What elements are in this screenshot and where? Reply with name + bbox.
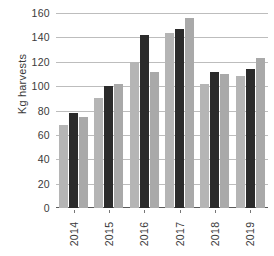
bar bbox=[175, 29, 184, 208]
y-axis-tick-labels: 020406080100120140160 bbox=[0, 13, 50, 208]
y-tick-label: 80 bbox=[6, 105, 50, 117]
x-tick-label: 2015 bbox=[103, 222, 115, 247]
bar-group bbox=[127, 13, 162, 208]
bar bbox=[210, 72, 219, 209]
y-tick-label: 40 bbox=[6, 153, 50, 165]
x-tick-label: 2018 bbox=[209, 222, 221, 247]
bar bbox=[79, 117, 88, 208]
bar bbox=[246, 69, 255, 208]
bar bbox=[130, 62, 139, 208]
bar bbox=[104, 86, 113, 208]
y-tick-label: 20 bbox=[6, 178, 50, 190]
bar bbox=[150, 72, 159, 209]
x-tick-group: 2015 bbox=[91, 210, 126, 256]
bar bbox=[200, 84, 209, 208]
y-tick-label: 120 bbox=[6, 56, 50, 68]
x-tick-mark bbox=[180, 210, 181, 213]
x-tick-group: 2018 bbox=[197, 210, 232, 256]
bar-chart: Kg harvests 020406080100120140160 201420… bbox=[0, 0, 274, 256]
bar-group bbox=[233, 13, 268, 208]
bar bbox=[69, 113, 78, 208]
bars-layer bbox=[56, 13, 268, 208]
x-tick-mark bbox=[250, 210, 251, 213]
x-tick-group: 2017 bbox=[162, 210, 197, 256]
y-tick-label: 100 bbox=[6, 80, 50, 92]
bar-group bbox=[56, 13, 91, 208]
y-tick-label: 0 bbox=[6, 202, 50, 214]
bar-group bbox=[162, 13, 197, 208]
bar bbox=[220, 74, 229, 208]
y-tick-label: 60 bbox=[6, 129, 50, 141]
x-tick-group: 2014 bbox=[56, 210, 91, 256]
x-tick-mark bbox=[144, 210, 145, 213]
x-tick-group: 2016 bbox=[127, 210, 162, 256]
x-tick-label: 2017 bbox=[174, 222, 186, 247]
bar bbox=[59, 125, 68, 208]
bar bbox=[94, 98, 103, 208]
bar bbox=[236, 76, 245, 208]
x-tick-mark bbox=[74, 210, 75, 213]
x-tick-label: 2019 bbox=[244, 222, 256, 247]
y-tick-label: 160 bbox=[6, 7, 50, 19]
x-tick-label: 2014 bbox=[68, 222, 80, 247]
x-tick-group: 2019 bbox=[233, 210, 268, 256]
y-tick-label: 140 bbox=[6, 31, 50, 43]
bar bbox=[114, 84, 123, 208]
bar-group bbox=[91, 13, 126, 208]
x-axis-tick-labels: 201420152016201720182019 bbox=[56, 210, 268, 256]
x-tick-mark bbox=[109, 210, 110, 213]
bar bbox=[185, 18, 194, 208]
bar bbox=[256, 58, 265, 208]
x-tick-label: 2016 bbox=[138, 222, 150, 247]
bar-group bbox=[197, 13, 232, 208]
bar bbox=[140, 35, 149, 208]
bar bbox=[165, 33, 174, 209]
x-tick-mark bbox=[215, 210, 216, 213]
